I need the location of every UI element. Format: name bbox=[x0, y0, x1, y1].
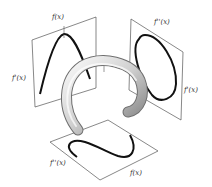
right-plane-side-label: f'(x) bbox=[184, 87, 198, 94]
bottom-plane-left-label: f''(x) bbox=[50, 160, 66, 167]
left-plane-side-label: f'(x) bbox=[12, 75, 26, 82]
phase-space-diagram: f(x) f'(x) f''(x) f'(x) f''(x) f(x) bbox=[0, 0, 212, 187]
left-plane-top-label: f(x) bbox=[52, 14, 64, 21]
right-plane-top-label: f''(x) bbox=[154, 19, 170, 26]
tube-curve bbox=[66, 61, 142, 130]
bottom-plane-right-label: f(x) bbox=[130, 170, 142, 177]
